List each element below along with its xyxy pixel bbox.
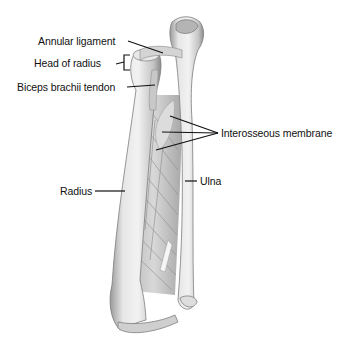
label-biceps-brachii-tendon: Biceps brachii tendon <box>17 81 115 93</box>
forearm-illustration <box>0 0 340 355</box>
label-head-of-radius: Head of radius <box>34 57 101 69</box>
label-ulna: Ulna <box>200 175 221 187</box>
label-annular-ligament: Annular ligament <box>38 35 115 47</box>
label-radius: Radius <box>60 185 92 197</box>
label-interosseous-membrane: Interosseous membrane <box>221 127 332 139</box>
